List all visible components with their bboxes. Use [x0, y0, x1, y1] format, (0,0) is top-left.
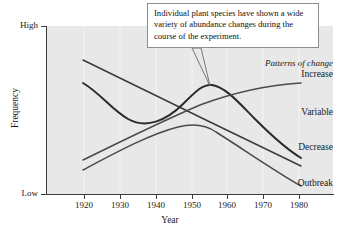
legend-label-decrease: Decrease [223, 142, 333, 152]
x-tick-1960 [227, 195, 228, 199]
y-axis-title: Frequency [10, 60, 20, 156]
legend-label-increase: Increase [223, 69, 333, 79]
x-tick-label-1970: 1970 [243, 200, 283, 210]
x-axis-line [46, 194, 334, 195]
x-tick-1920 [84, 195, 85, 199]
y-axis-line [46, 26, 47, 195]
x-tick-label-1920: 1920 [64, 200, 104, 210]
x-tick-label-1940: 1940 [136, 200, 176, 210]
x-tick-1940 [156, 195, 157, 199]
legend-label-variable: Variable [223, 107, 333, 117]
y-axis-high-label: High [6, 20, 38, 30]
x-tick-1950 [192, 195, 193, 199]
x-tick-label-1950: 1950 [172, 200, 212, 210]
y-tick-high [41, 26, 46, 27]
x-tick-1980 [299, 195, 300, 199]
y-axis-low-label: Low [6, 188, 38, 198]
figure: High Low Frequency 1920 1930 1940 1950 1… [0, 0, 340, 240]
y-tick-low [41, 194, 46, 195]
x-tick-1930 [120, 195, 121, 199]
x-tick-label-1930: 1930 [100, 200, 140, 210]
callout-box: Individual plant species have shown a wi… [147, 3, 319, 48]
legend-label-outbreak: Outbreak [223, 178, 333, 188]
x-tick-1970 [263, 195, 264, 199]
x-axis-title: Year [0, 215, 340, 225]
legend-title: Patterns of change [229, 58, 333, 68]
callout-leader-line [192, 48, 210, 86]
x-tick-label-1980: 1980 [279, 200, 319, 210]
x-tick-label-1960: 1960 [207, 200, 247, 210]
